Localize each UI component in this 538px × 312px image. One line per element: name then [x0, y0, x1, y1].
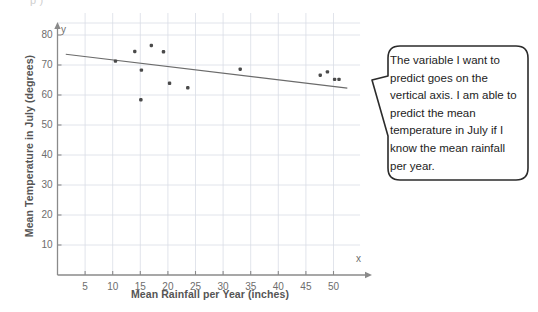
data-point: [162, 50, 165, 53]
y-axis-letter: y: [61, 24, 66, 35]
scatter-plot: y x 1020304050607080 5101520253035404550…: [0, 0, 400, 312]
data-point: [239, 68, 242, 71]
data-point: [337, 78, 340, 81]
data-point: [333, 78, 336, 81]
data-point: [139, 98, 142, 101]
gridlines: [58, 13, 361, 275]
data-point: [133, 50, 136, 53]
data-point: [168, 82, 171, 85]
data-point: [326, 70, 329, 73]
data-points: [114, 44, 341, 102]
axis-lines: [54, 22, 372, 278]
y-axis-title: Mean Temperature in July (degrees): [23, 31, 35, 261]
data-point: [114, 59, 117, 62]
trend-line: [66, 54, 348, 88]
data-point: [319, 74, 322, 77]
x-axis-letter: x: [356, 253, 361, 264]
data-point: [186, 86, 189, 89]
data-point: [150, 44, 153, 47]
data-point: [140, 68, 143, 71]
x-axis-title: Mean Rainfall per Year (inches): [60, 288, 360, 300]
plot-canvas: [0, 0, 400, 312]
callout-bubble: The variable I want to predict goes on t…: [358, 36, 538, 196]
callout-text: The variable I want to predict goes on t…: [390, 52, 524, 175]
screenshot-root: p ) y x 1020304050607080 510152025303540…: [0, 0, 538, 312]
